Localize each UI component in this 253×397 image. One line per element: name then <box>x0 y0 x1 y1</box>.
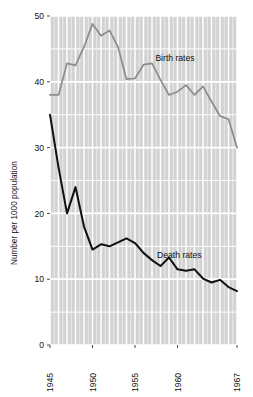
x-tick-label: 1945 <box>45 373 55 392</box>
y-axis-title: Number per 1000 population <box>10 161 19 265</box>
y-tick-label: 40 <box>34 77 44 87</box>
y-tick-label: 0 <box>39 340 44 350</box>
series-label-death-rates: Death rates <box>157 250 201 260</box>
x-tick-label: 1955 <box>130 373 140 392</box>
birth-death-rates-chart: 01020304050 19451950195519601967 Birth r… <box>0 0 253 397</box>
x-tick-label: 1960 <box>173 373 183 392</box>
chart-canvas: 01020304050 19451950195519601967 Birth r… <box>0 0 253 397</box>
y-tick-label: 10 <box>34 274 44 284</box>
x-tick-label: 1950 <box>88 373 98 392</box>
y-tick-label: 30 <box>34 143 44 153</box>
series-label-birth-rates: Birth rates <box>155 53 194 63</box>
y-tick-label: 20 <box>34 209 44 219</box>
y-tick-label: 50 <box>34 11 44 21</box>
x-tick-label: 1967 <box>232 373 242 392</box>
